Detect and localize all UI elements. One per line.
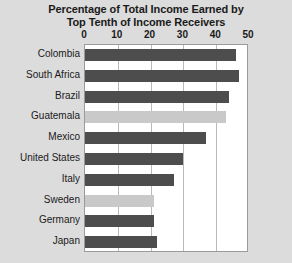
category-label-south-africa: South Africa [0, 69, 80, 81]
x-tick-label-50: 50 [242, 29, 253, 40]
x-tick-label-10: 10 [111, 29, 122, 40]
bar-brazil [85, 91, 229, 103]
category-label-mexico: Mexico [0, 131, 80, 143]
bar-row [85, 87, 247, 108]
x-tick-label-40: 40 [210, 29, 221, 40]
bar-italy [85, 174, 174, 186]
category-label-germany: Germany [0, 214, 80, 226]
category-label-sweden: Sweden [0, 194, 80, 206]
bar-row [85, 128, 247, 149]
category-label-united-states: United States [0, 152, 80, 164]
chart-title-line-2: Top Tenth of Income Receivers [0, 16, 292, 29]
bar-chart-figure: Percentage of Total Income Earned by Top… [0, 0, 292, 263]
bar-row [85, 170, 247, 191]
category-label-italy: Italy [0, 173, 80, 185]
bar-row [85, 107, 247, 128]
bar-germany [85, 215, 154, 227]
x-tick-label-20: 20 [144, 29, 155, 40]
bar-row [85, 232, 247, 253]
category-label-guatemala: Guatemala [0, 110, 80, 122]
bar-row [85, 66, 247, 87]
x-tick-label-30: 30 [177, 29, 188, 40]
category-label-brazil: Brazil [0, 90, 80, 102]
chart-title: Percentage of Total Income Earned by Top… [0, 3, 292, 29]
category-label-colombia: Colombia [0, 48, 80, 60]
bar-japan [85, 236, 157, 248]
bar-guatemala [85, 111, 226, 123]
bar-row [85, 149, 247, 170]
bar-south-africa [85, 70, 239, 82]
bar-colombia [85, 49, 236, 61]
bar-row [85, 211, 247, 232]
bar-sweden [85, 195, 154, 207]
bar-row [85, 45, 247, 66]
plot-area [84, 44, 248, 252]
category-label-japan: Japan [0, 235, 80, 247]
chart-title-line-1: Percentage of Total Income Earned by [0, 3, 292, 16]
bar-row [85, 191, 247, 212]
bar-united-states [85, 153, 183, 165]
x-tick-label-0: 0 [81, 29, 87, 40]
bar-mexico [85, 132, 206, 144]
